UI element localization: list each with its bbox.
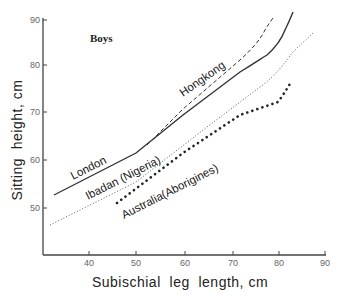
svg-text:70: 70 (228, 258, 238, 268)
chart: 90 80 70 60 50 40 50 60 70 80 90 Subisch… (0, 0, 342, 298)
series-hongkong-line (147, 16, 274, 145)
y-tick-labels: 90 80 70 60 50 (30, 15, 40, 213)
panel-label: Boys (90, 32, 113, 44)
svg-text:90: 90 (30, 15, 40, 25)
svg-text:60: 60 (30, 155, 40, 165)
svg-text:50: 50 (131, 258, 141, 268)
svg-text:90: 90 (320, 258, 330, 268)
svg-text:70: 70 (30, 107, 40, 117)
x-axis-title: Subischial leg length, cm (92, 274, 268, 290)
series-australia-line (117, 82, 291, 203)
svg-text:60: 60 (180, 258, 190, 268)
y-axis-title: Sitting height, cm (9, 80, 25, 201)
svg-text:80: 80 (274, 258, 284, 268)
x-tick-labels: 40 50 60 70 80 90 (84, 258, 330, 268)
svg-text:80: 80 (30, 60, 40, 70)
svg-text:50: 50 (30, 203, 40, 213)
svg-text:40: 40 (84, 258, 94, 268)
label-hongkong: Hongkong (177, 59, 227, 99)
